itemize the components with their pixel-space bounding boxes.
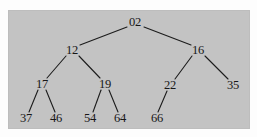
tree-node-35: 35 <box>227 79 239 92</box>
tree-node-19: 19 <box>99 78 111 91</box>
tree-node-02: 02 <box>129 16 141 29</box>
tree-node-66: 66 <box>151 112 163 125</box>
tree-node-37: 37 <box>20 112 32 125</box>
tree-node-46: 46 <box>50 112 62 125</box>
tree-node-17: 17 <box>36 78 48 91</box>
tree-node-12: 12 <box>66 44 78 57</box>
tree-node-64: 64 <box>114 112 126 125</box>
tree-diagram-screenshot: 021216171922353746546466 <box>0 0 257 137</box>
tree-node-54: 54 <box>84 112 96 125</box>
tree-node-16: 16 <box>192 44 204 57</box>
tree-node-22: 22 <box>164 79 176 92</box>
